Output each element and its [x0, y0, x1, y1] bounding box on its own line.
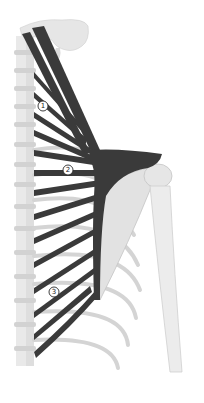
label-2: 2: [63, 165, 73, 175]
anatomy-illustration: 1 2 3: [0, 0, 204, 403]
label-1-text: 1: [41, 102, 45, 110]
label-3: 3: [49, 287, 59, 297]
label-2-text: 2: [66, 166, 70, 174]
label-1: 1: [38, 101, 48, 111]
label-3-text: 3: [52, 288, 56, 296]
humerus: [144, 164, 182, 372]
